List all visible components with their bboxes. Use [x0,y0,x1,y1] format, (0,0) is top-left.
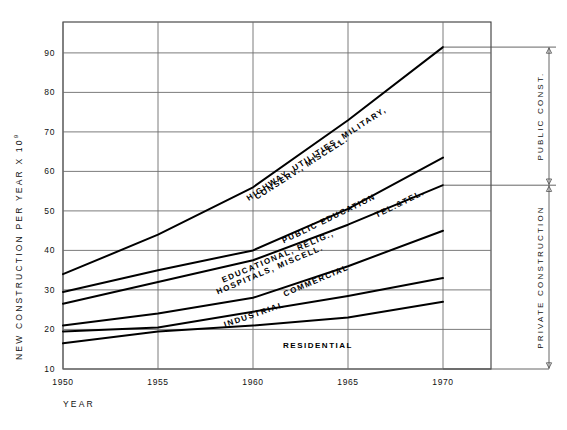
x-tick-1970: 1970 [432,377,453,387]
x-axis-caption: YEAR [63,399,95,409]
y-tick-40: 40 [44,245,55,255]
y-tick-70: 70 [44,127,55,137]
y-axis-caption: NEW CONSTRUCTION PER YEAR X 109 [13,133,24,360]
band-label-highway-line2: CONSERV., MISCELL. [253,134,350,201]
x-tick-1950: 1950 [52,377,73,387]
y-tick-20: 20 [44,324,55,334]
horizontal-gridlines [63,53,491,369]
y-tick-90: 90 [44,48,55,58]
band-label-tel-and-tel: TEL.&TEL. [374,188,426,220]
y-axis-caption-text: NEW CONSTRUCTION PER YEAR X 109 [13,133,24,360]
x-tick-1960: 1960 [242,377,263,387]
y-tick-10: 10 [44,364,55,374]
band-labels: RESIDENTIAL INDUSTRIAL COMMERCIAL EDUCAT… [215,105,426,350]
x-tick-1965: 1965 [337,377,358,387]
chart-figure: 10 20 30 40 50 60 70 80 90 1950 1955 196… [0,0,567,430]
y-tick-80: 80 [44,87,55,97]
y-tick-labels: 10 20 30 40 50 60 70 80 90 [44,48,55,374]
y-tick-50: 50 [44,206,55,216]
chart-svg: 10 20 30 40 50 60 70 80 90 1950 1955 196… [0,0,567,430]
bracket-label-public-const: PUBLIC CONST. [536,71,545,160]
y-tick-30: 30 [44,285,55,295]
x-tick-labels: 1950 1955 1960 1965 1970 [52,377,453,387]
side-brackets: PUBLIC CONST. PRIVATE CONSTRUCTION [443,47,556,369]
x-tick-1955: 1955 [147,377,168,387]
band-label-commercial: COMMERCIAL [282,263,350,299]
bracket-label-private-construction: PRIVATE CONSTRUCTION [536,205,545,349]
y-tick-60: 60 [44,166,55,176]
band-label-residential: RESIDENTIAL [283,341,353,350]
